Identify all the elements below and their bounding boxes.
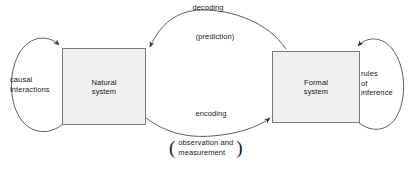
node-formal-system[interactable]: Formal system — [272, 51, 360, 123]
edge-label-encoding: encoding — [187, 109, 235, 119]
modeling-relation-diagram: Natural system Formal system decoding (p… — [0, 0, 413, 172]
encoding-arc — [146, 118, 270, 136]
edge-sublabel-prediction: (prediction) — [188, 32, 242, 42]
edge-label-rules-of-inference: rules of inference — [361, 69, 413, 98]
edge-sublabel-observation-measurement: observation and measurement — [178, 138, 233, 157]
node-natural-system[interactable]: Natural system — [62, 48, 146, 125]
edge-sublabel-observation-measurement-group: ( observation and measurement ) — [169, 138, 243, 157]
node-formal-system-label: Formal system — [304, 78, 328, 96]
edge-label-decoding: decoding — [183, 3, 233, 13]
close-paren: ) — [236, 138, 242, 157]
edge-label-causal-interactions: causal interactions — [10, 75, 66, 94]
decoding-arc — [150, 10, 286, 49]
open-paren: ( — [169, 138, 175, 157]
node-natural-system-label: Natural system — [92, 78, 117, 96]
